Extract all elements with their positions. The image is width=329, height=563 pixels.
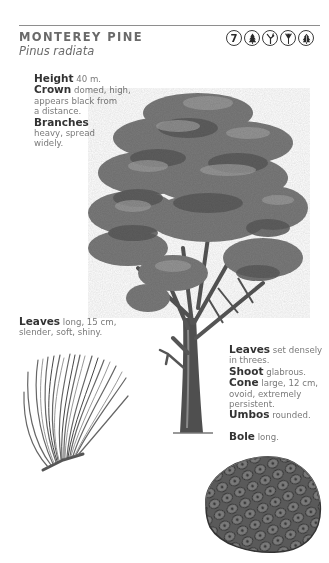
leaves-text-cont: slender, soft, shiny. bbox=[19, 327, 116, 337]
bole-label: Bole bbox=[229, 430, 255, 442]
leaf-description: Leaves long, 15 cm, slender, soft, shiny… bbox=[19, 316, 116, 338]
cone-text-cont: ovoid, extremely bbox=[229, 389, 322, 399]
broad-conifer-icon bbox=[298, 30, 314, 46]
common-name: MONTEREY PINE bbox=[19, 30, 143, 44]
leaves-text: set densely bbox=[273, 345, 322, 355]
header-rule bbox=[19, 25, 320, 26]
branching-twig-icon bbox=[262, 30, 278, 46]
needle-cluster-icon bbox=[280, 30, 296, 46]
pine-needle-cluster-illustration bbox=[18, 352, 130, 474]
crown-label: Crown bbox=[34, 83, 71, 95]
scientific-name: Pinus radiata bbox=[19, 44, 94, 58]
umbos-label: Umbos bbox=[229, 408, 269, 420]
pine-cone-illustration bbox=[198, 452, 326, 556]
umbos-text: rounded. bbox=[272, 410, 310, 420]
height-label: Height bbox=[34, 72, 74, 84]
shoot-text: glabrous. bbox=[266, 367, 306, 377]
bole-text: long. bbox=[258, 432, 279, 442]
leaves-label: Leaves bbox=[19, 315, 60, 327]
branches-label: Branches bbox=[34, 116, 89, 128]
number-7-icon: 7 bbox=[226, 30, 242, 46]
height-value: 40 m. bbox=[76, 74, 101, 84]
shoot-label: Shoot bbox=[229, 365, 263, 377]
leaves-label: Leaves bbox=[229, 343, 270, 355]
conifer-tree-icon bbox=[244, 30, 260, 46]
leaves-text: long, 15 cm, bbox=[63, 317, 117, 327]
detail-description: Leaves set densely in threes. Shoot glab… bbox=[229, 344, 322, 442]
cone-text: large, 12 cm, bbox=[261, 378, 318, 388]
identification-badges: 7 bbox=[226, 30, 314, 46]
cone-label: Cone bbox=[229, 376, 259, 388]
